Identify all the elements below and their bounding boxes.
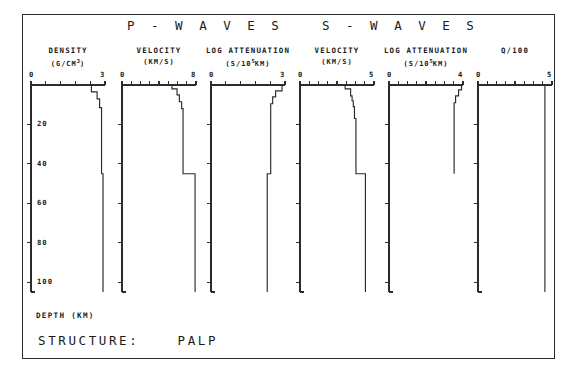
profile-curve-s-velocity [345, 85, 365, 292]
structure-caption: STRUCTURE: PALP [38, 333, 218, 348]
profile-curve-density [91, 85, 103, 292]
profile-curve-p-velocity [172, 85, 195, 292]
profile-curve-s-log-attenuation [454, 85, 461, 174]
seismic-structure-figure: P - W A V E S S - W A V E S DENSITY(G/CM… [0, 0, 577, 374]
depth-axis-caption: DEPTH (KM) [36, 311, 95, 320]
profile-curve-p-log-attenuation [267, 85, 282, 292]
structure-value: PALP [178, 333, 219, 348]
structure-label: STRUCTURE: [38, 333, 139, 348]
